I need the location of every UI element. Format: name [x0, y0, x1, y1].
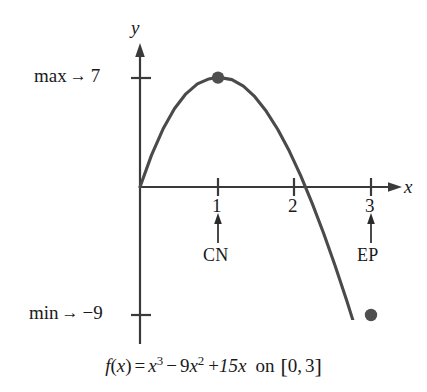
function-formula: f(x)=x3−9x2+15xon[0,3] [0, 352, 427, 378]
max-annotation-arrow-icon: → [67, 66, 91, 85]
formula-minus: − [163, 355, 180, 376]
x-axis-arrowhead [388, 182, 402, 192]
ep-callout-arrow [367, 213, 375, 243]
axes-group [135, 43, 402, 344]
function-curve [140, 78, 364, 357]
endpoint-label: EP [357, 246, 379, 264]
formula-term1-base: x [148, 355, 156, 376]
formula-interval-lo: 0, [288, 355, 302, 376]
formula-equals: = [132, 355, 149, 376]
formula-on: on [246, 355, 280, 376]
min-annotation: min→−9 [29, 303, 103, 322]
formula-term3: 15x [219, 355, 246, 376]
critical-point-marker [212, 71, 224, 83]
x-tick-label-2: 2 [288, 196, 298, 215]
min-annotation-word: min [29, 302, 59, 323]
critical-number-label: CN [203, 246, 229, 264]
formula-var: x [117, 355, 125, 376]
formula-term2-coef: 9 [180, 355, 190, 376]
cn-callout-arrow [214, 213, 222, 243]
x-tick-label-3: 3 [365, 196, 375, 215]
max-annotation-word: max [34, 65, 67, 86]
graph-figure: y x max→7 min→−9 1 2 3 CN EP f(x)=x3−9x2… [0, 0, 427, 392]
endpoint-marker [365, 309, 377, 321]
max-annotation-value: 7 [91, 65, 101, 86]
formula-term2-base: x [189, 355, 197, 376]
max-annotation: max→7 [34, 66, 100, 85]
min-annotation-value: −9 [83, 302, 103, 323]
y-axis-label: y [131, 18, 139, 37]
min-annotation-arrow-icon: → [59, 303, 83, 322]
x-axis-label: x [404, 177, 412, 196]
formula-interval-hi: 3 [302, 355, 315, 376]
formula-plus: + [204, 355, 219, 376]
formula-interval-open: [ [280, 353, 287, 378]
x-tick-label-1: 1 [212, 196, 222, 215]
y-axis-arrowhead [135, 43, 145, 57]
formula-close-paren: ) [125, 355, 131, 376]
formula-interval-close: ] [315, 353, 322, 378]
